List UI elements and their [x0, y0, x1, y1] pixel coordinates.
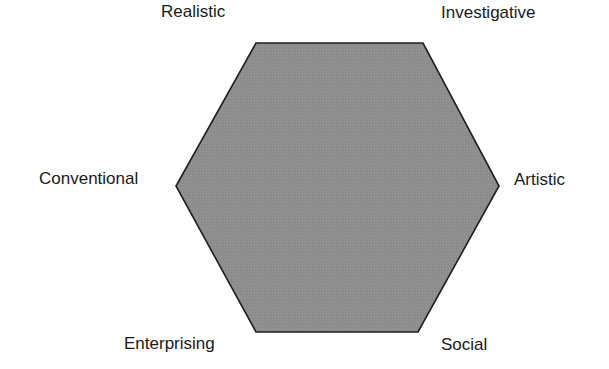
hexagon-shape [176, 43, 499, 332]
label-realistic: Realistic [161, 3, 225, 20]
label-investigative: Investigative [441, 4, 536, 21]
label-artistic: Artistic [514, 171, 565, 188]
label-social: Social [441, 336, 487, 353]
label-enterprising: Enterprising [124, 335, 215, 352]
label-conventional: Conventional [39, 170, 138, 187]
